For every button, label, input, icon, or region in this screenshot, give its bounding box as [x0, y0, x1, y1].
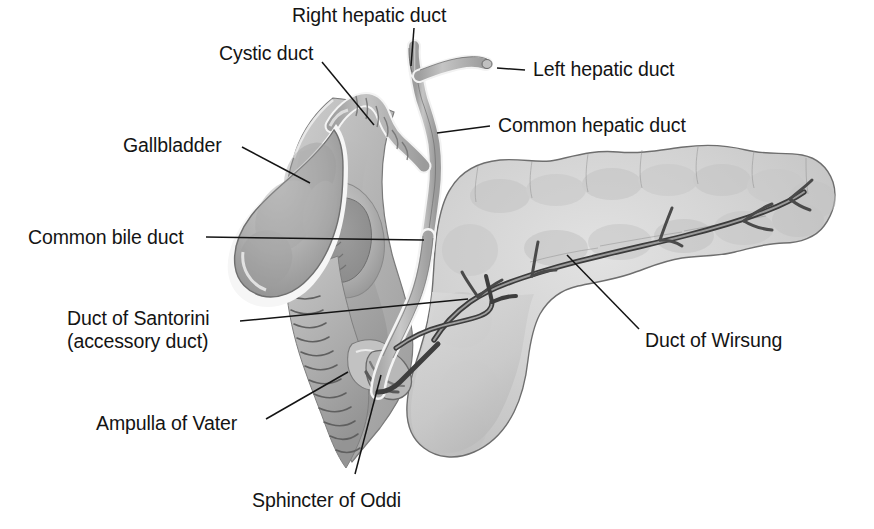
label-duct-of-wirsung: Duct of Wirsung: [645, 329, 782, 352]
pancreas: [407, 145, 836, 457]
label-right-hepatic-duct: Right hepatic duct: [292, 4, 446, 27]
label-cystic-duct: Cystic duct: [219, 42, 313, 65]
leader-common-hepatic-duct: [437, 126, 490, 133]
label-common-bile-duct: Common bile duct: [28, 226, 184, 249]
label-ampulla-of-vater: Ampulla of Vater: [96, 412, 237, 435]
label-duct-of-santorini: Duct of Santorini (accessory duct): [67, 307, 247, 353]
label-left-hepatic-duct: Left hepatic duct: [533, 58, 674, 81]
label-sphincter-of-oddi: Sphincter of Oddi: [252, 489, 401, 512]
label-duct-of-santorini-line2: (accessory duct): [67, 330, 247, 353]
anatomy-illustration: [0, 0, 874, 529]
leader-left-hepatic-duct: [497, 68, 525, 70]
right-hepatic-duct: [414, 46, 416, 72]
label-common-hepatic-duct: Common hepatic duct: [498, 114, 686, 137]
label-duct-of-santorini-line1: Duct of Santorini: [67, 307, 247, 330]
label-gallbladder: Gallbladder: [123, 134, 222, 157]
anatomy-figure: Right hepatic duct Left hepatic duct Com…: [0, 0, 874, 529]
left-hepatic-duct-tip: [482, 60, 492, 69]
